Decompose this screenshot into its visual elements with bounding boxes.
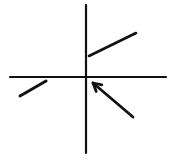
arrow [93, 83, 133, 117]
arrow-shaft [93, 83, 133, 117]
diagram-svg [0, 0, 172, 165]
lower-left-segment [20, 81, 46, 96]
upper-right-segment [89, 33, 136, 56]
diagram-canvas [0, 0, 172, 165]
